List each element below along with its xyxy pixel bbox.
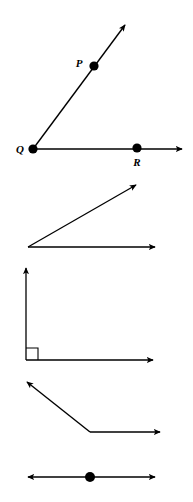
diagram-obtuse-angle: [27, 382, 160, 432]
diagram-straight-line: [28, 472, 155, 482]
ray-qp: [33, 25, 125, 149]
angle-diagram-figure: Q P R: [0, 0, 193, 502]
diagram-right-angle: [26, 268, 153, 360]
vertex-point-q: [28, 144, 37, 153]
label-q: Q: [16, 143, 24, 155]
ray-acute-upper: [28, 185, 136, 247]
diagram-acute-angle: [28, 185, 155, 247]
label-p: P: [76, 57, 83, 69]
diagram-canvas: Q P R: [0, 0, 193, 502]
ray-obtuse-upper-left: [27, 382, 90, 432]
label-r: R: [132, 156, 140, 168]
right-angle-marker-icon: [26, 348, 38, 360]
point-p: [89, 61, 98, 70]
point-r: [132, 143, 141, 152]
diagram-angle-pqr: Q P R: [16, 25, 182, 168]
midpoint-dot: [85, 472, 95, 482]
